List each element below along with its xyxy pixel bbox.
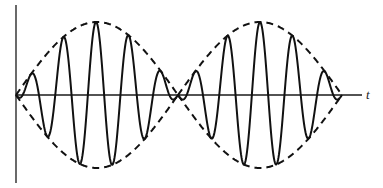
beats-diagram: t — [0, 0, 383, 188]
time-axis-label: t — [366, 87, 370, 102]
lower-envelope-dashed — [16, 95, 342, 168]
upper-envelope-dashed — [16, 22, 342, 95]
